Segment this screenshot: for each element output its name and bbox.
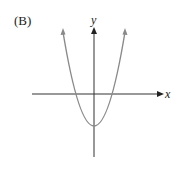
x-axis-arrow-icon (157, 91, 164, 97)
graph: y x (0, 0, 178, 170)
y-axis-arrow-icon (91, 27, 97, 34)
curve-right-arrow-icon (123, 28, 128, 35)
curve-left-arrow-icon (61, 28, 66, 35)
x-axis-label: x (164, 87, 171, 101)
y-axis-label: y (90, 13, 97, 27)
